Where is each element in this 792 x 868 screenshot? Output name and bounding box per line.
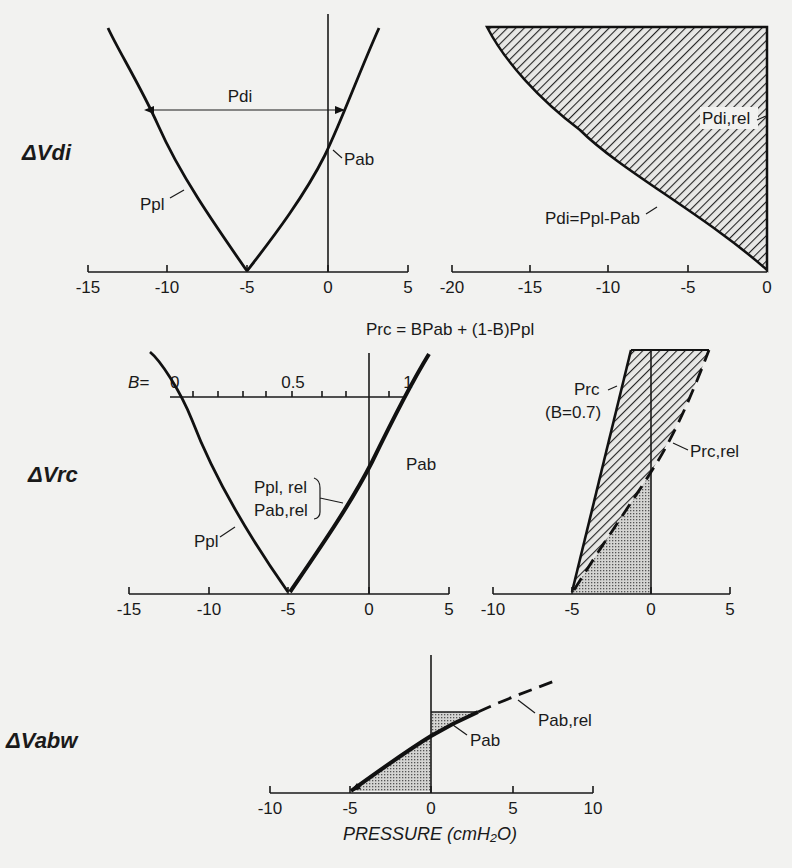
tick-label: -5 — [280, 600, 295, 619]
pdi-eq-leader — [646, 207, 657, 214]
b-scale-label: B= — [128, 373, 149, 392]
prc-rel-leader — [673, 443, 688, 450]
pab-leader — [333, 150, 342, 158]
tick-label: -20 — [440, 278, 465, 297]
dvdi-ylabel: ΔVdi — [21, 140, 72, 165]
tick-label: -10 — [197, 600, 222, 619]
prc-leader — [608, 386, 617, 390]
tick-label: 5 — [508, 799, 517, 818]
tick-label: 5 — [725, 600, 734, 619]
pab-label: Pab — [406, 455, 436, 474]
b-tick-label: 0.5 — [281, 373, 305, 392]
pab-leader — [453, 725, 467, 735]
tick-label: 0 — [323, 278, 332, 297]
prc-rel-label: Prc,rel — [690, 442, 739, 461]
pab-rel-leader — [518, 700, 535, 713]
dvrc-ylabel: ΔVrc — [27, 462, 78, 487]
prc-b-label: (B=0.7) — [545, 403, 601, 422]
dvrc-tick-labels: -15 -10 -5 0 5 — [117, 600, 454, 619]
pab-label: Pab — [470, 731, 500, 750]
ppl-leader — [220, 527, 235, 537]
tick-label: -10 — [155, 278, 180, 297]
pdi-rel-area — [487, 27, 767, 270]
x-axis-title: PRESSURE (cmH₂O) — [343, 824, 517, 844]
pdi-eq-label: Pdi=Ppl-Pab — [545, 209, 640, 228]
tick-label: 5 — [403, 278, 412, 297]
tick-label: 10 — [584, 799, 603, 818]
tick-label: 5 — [444, 600, 453, 619]
tick-label: -15 — [76, 278, 101, 297]
panel-dvdi-rel: -20 -15 -10 -5 0 Pdi,rel Pdi=Ppl-Pab — [440, 27, 772, 297]
dvabw-ylabel: ΔVabw — [5, 728, 79, 753]
ppl-label: Ppl — [140, 195, 165, 214]
dvabw-tick-labels: -10 -5 0 5 10 — [258, 799, 603, 818]
tick-label: -5 — [680, 278, 695, 297]
pdi-label: Pdi — [228, 87, 253, 106]
panel-dvrc: ΔVrc Prc = BPab + (1-B)Ppl B= 0 0.5 1 -1… — [27, 320, 534, 619]
tick-label: -10 — [596, 278, 621, 297]
dvdi-tick-labels: -15 -10 -5 0 5 — [76, 278, 413, 297]
panel-dvrc-rel: -10 -5 0 5 Prc (B=0.7) Prc,rel — [481, 350, 739, 619]
tick-label: -15 — [117, 600, 142, 619]
figure: ΔVdi -15 -10 -5 0 5 Pdi Pab Ppl — [0, 0, 792, 868]
pdi-rel-label: Pdi,rel — [702, 109, 750, 128]
pab-label: Pab — [344, 150, 374, 169]
ppl-leader — [170, 190, 184, 198]
prc-equation: Prc = BPab + (1-B)Ppl — [366, 320, 534, 339]
pab-rel-label: Pab,rel — [254, 501, 308, 520]
ppl-curve — [108, 28, 247, 271]
prc-label: Prc — [574, 380, 600, 399]
tick-label: 0 — [426, 799, 435, 818]
tick-label: -5 — [239, 278, 254, 297]
dvdi-rel-tick-labels: -20 -15 -10 -5 0 — [440, 278, 772, 297]
pab-rel-label: Pab,rel — [538, 711, 592, 730]
tick-label: -5 — [564, 600, 579, 619]
dvrc-rel-tick-labels: -10 -5 0 5 — [481, 600, 735, 619]
panel-dvabw: ΔVabw -10 -5 0 5 10 Pab Pab,rel PRESSURE… — [5, 655, 602, 844]
rel-brace — [314, 478, 343, 519]
tick-label: 0 — [364, 600, 373, 619]
tick-label: -5 — [342, 799, 357, 818]
tick-label: -10 — [258, 799, 283, 818]
dvabw-x-axis — [270, 786, 593, 793]
tick-label: -15 — [518, 278, 543, 297]
tick-label: 0 — [762, 278, 771, 297]
ppl-label: Ppl — [194, 532, 219, 551]
dvdi-rel-x-axis — [452, 265, 767, 272]
pab-rel-curve — [478, 680, 557, 712]
tick-label: -10 — [481, 600, 506, 619]
panel-dvdi: ΔVdi -15 -10 -5 0 5 Pdi Pab Ppl — [21, 14, 413, 297]
ppl-rel-label: Ppl, rel — [254, 478, 307, 497]
tick-label: 0 — [646, 600, 655, 619]
